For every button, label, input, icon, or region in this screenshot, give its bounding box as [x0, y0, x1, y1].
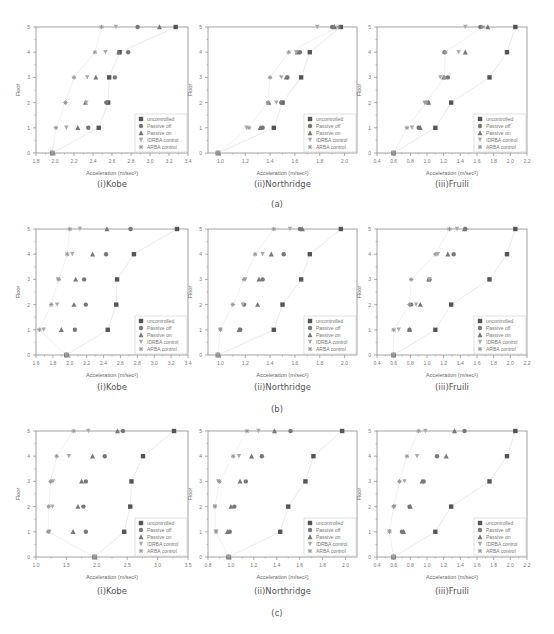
legend-item: Passive off [147, 325, 172, 331]
y-tick-label: 2 [27, 100, 30, 106]
y-tick-label: 0 [27, 554, 30, 560]
marker-star [405, 454, 409, 458]
marker-circle [244, 479, 248, 483]
x-tick-label: 1.5 [63, 562, 70, 568]
marker-circle [260, 454, 264, 458]
marker-square [308, 50, 312, 54]
series-passive-off [391, 227, 467, 357]
x-tick-label: 0.8 [407, 360, 414, 366]
x-tick-label: 3.2 [166, 158, 173, 164]
series-arba-control [50, 25, 104, 155]
marker-circle [86, 126, 90, 130]
marker-star [409, 277, 413, 281]
x-tick-label: 2.0 [507, 158, 514, 164]
y-tick-label: 5 [368, 226, 371, 232]
y-axis-label: Floor [356, 488, 362, 501]
legend-item: uncontrolled [147, 520, 174, 526]
y-tick-label: 1 [368, 529, 371, 535]
y-axis-label: Floor [187, 286, 193, 299]
series-passive-on [71, 428, 120, 559]
x-tick-label: 3.0 [151, 360, 158, 366]
y-tick-label: 3 [368, 74, 371, 80]
x-tick-label: 2.0 [507, 360, 514, 366]
legend-item: IDRBA control [147, 137, 178, 143]
marker-square [106, 328, 110, 332]
x-tick-label: 1.8 [490, 360, 497, 366]
legend: uncontrolledPassive offPassive onIDRBA c… [304, 316, 356, 354]
marker-square [308, 117, 312, 121]
marker-star [57, 277, 61, 281]
marker-square [175, 227, 179, 231]
x-tick-label: 1.6 [296, 562, 303, 568]
x-tick-label: 1.0 [217, 360, 224, 366]
y-axis-label: Floor [356, 286, 362, 299]
legend: uncontrolledPassive offPassive onIDRBA c… [474, 518, 526, 556]
x-tick-label: 2.8 [134, 360, 141, 366]
legend-item: Passive off [147, 527, 172, 533]
row-label: (a) [262, 199, 292, 209]
marker-square [272, 126, 276, 130]
marker-square [339, 227, 343, 231]
marker-square [122, 530, 126, 534]
x-tick-label: 2.4 [90, 158, 97, 164]
y-tick-label: 5 [368, 24, 371, 30]
y-tick-label: 4 [368, 49, 371, 55]
y-tick-label: 2 [27, 302, 30, 308]
marker-square [308, 521, 312, 525]
x-tick-label: 2.0 [507, 562, 514, 568]
x-tick-label: 1.4 [273, 562, 280, 568]
legend-item: ARBA control [316, 346, 346, 352]
marker-circle [139, 124, 143, 128]
y-tick-label: 0 [199, 150, 202, 156]
legend: uncontrolledPassive offPassive onIDRBA c… [474, 316, 526, 354]
marker-triangle [463, 50, 468, 55]
legend-item: Passive on [147, 534, 172, 540]
y-tick-label: 0 [368, 352, 371, 358]
y-tick-label: 2 [27, 504, 30, 510]
marker-triangle [445, 252, 450, 257]
marker-triangle [418, 302, 423, 307]
y-tick-label: 0 [368, 554, 371, 560]
y-tick-label: 4 [199, 49, 202, 55]
x-tick-label: 1.8 [49, 360, 56, 366]
trend-line [215, 431, 247, 557]
marker-star [63, 100, 67, 104]
marker-triangle [79, 479, 84, 484]
marker-star [216, 353, 220, 357]
x-tick-label: 0.8 [407, 562, 414, 568]
marker-star [253, 252, 257, 256]
marker-circle [81, 504, 85, 508]
panel-caption: (iii)Fruili [377, 586, 527, 596]
x-axis-label: Acceleration (m/sec²) [86, 170, 138, 176]
x-tick-label: 1.2 [440, 158, 447, 164]
marker-square [311, 454, 315, 458]
marker-square [139, 521, 143, 525]
y-tick-label: 0 [27, 150, 30, 156]
legend-item: uncontrolled [147, 116, 174, 122]
legend-item: uncontrolled [486, 318, 513, 324]
marker-triangle [93, 75, 98, 80]
marker-star [407, 302, 411, 306]
y-tick-label: 0 [368, 150, 371, 156]
marker-circle [113, 75, 117, 79]
x-axis-label: Acceleration (m/sec²) [257, 574, 309, 580]
marker-star [139, 145, 143, 149]
marker-star [308, 347, 312, 351]
marker-triangle-down [103, 50, 107, 54]
marker-star [397, 479, 401, 483]
legend-item: uncontrolled [316, 116, 343, 122]
marker-triangle [90, 454, 95, 459]
series-idrba-control [47, 429, 96, 559]
marker-square [433, 126, 437, 130]
marker-triangle-down [260, 252, 264, 256]
x-tick-label: 3.0 [154, 562, 161, 568]
x-tick-label: 1.6 [474, 360, 481, 366]
marker-star [391, 328, 395, 332]
marker-triangle-down [414, 302, 418, 306]
x-tick-label: 1.2 [242, 158, 249, 164]
marker-square [478, 319, 482, 323]
chart-panel-a-i: 0123451.82.02.22.42.62.83.03.23.4Acceler… [10, 21, 194, 183]
legend-item: IDRBA control [486, 137, 517, 143]
marker-star [405, 126, 409, 130]
marker-circle [139, 528, 143, 532]
